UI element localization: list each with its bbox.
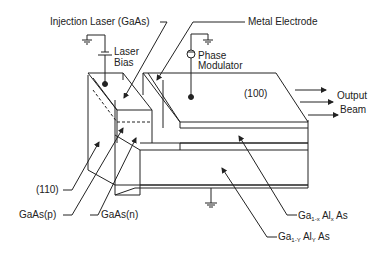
label-gaas-n: GaAs(n) (101, 209, 138, 220)
label-phase-modulator-line2: Modulator (198, 60, 242, 71)
label-face-110: (110) (36, 184, 59, 195)
label-output-beam-line1: Output (337, 90, 367, 101)
label-gaas-p: GaAs(p) (19, 209, 56, 220)
label-metal-electrode: Metal Electrode (248, 16, 317, 27)
label-face-100: (100) (244, 88, 267, 99)
label-laser-bias-line1: Laser (114, 46, 139, 57)
substrate-block (115, 100, 308, 195)
label-injection-laser: Injection Laser (GaAs) (50, 16, 150, 27)
diagram-canvas: Injection Laser (GaAs) Metal Electrode L… (0, 0, 385, 253)
laser-bias-circuit (82, 35, 112, 58)
label-output-beam-line2: Beam (340, 104, 366, 115)
substrate-ground (205, 188, 217, 207)
leader-lines (63, 22, 297, 237)
laser-section (88, 58, 152, 143)
label-gaalas-x: Ga1-x Alx As (298, 210, 348, 225)
label-laser-bias-line2: Bias (114, 57, 133, 68)
modulator-section (143, 34, 308, 128)
label-gaalas-y: Ga1-Y AlY As (278, 231, 330, 246)
